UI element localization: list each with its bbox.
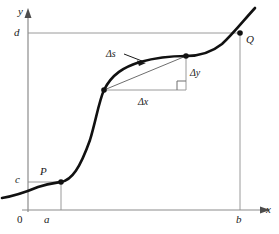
delta-s-label: Δs [106, 49, 116, 59]
delta-x-label: Δx [138, 97, 148, 107]
delta-y-label: Δy [190, 68, 200, 78]
point-triangle-left-marker [101, 87, 107, 93]
right-angle-marker-icon [177, 81, 186, 90]
x-tick-label-b: b [236, 214, 242, 225]
point-P-marker [58, 179, 64, 185]
x-tick-label-a: a [44, 214, 50, 225]
y-axis-arrow-icon [25, 8, 32, 18]
point-label-P: P [40, 166, 47, 177]
figure-root: y x d c 0 a b P Q Δs Δy Δx [0, 0, 279, 234]
y-tick-label-d: d [14, 27, 20, 38]
y-axis-label: y [18, 6, 23, 17]
delta-s-pointer-line [124, 54, 142, 61]
x-axis-label: x [266, 204, 271, 215]
point-Q-marker [237, 30, 243, 36]
origin-label: 0 [17, 214, 23, 225]
figure-canvas [0, 0, 279, 234]
point-label-Q: Q [246, 34, 254, 45]
y-tick-label-c: c [15, 174, 20, 185]
point-triangle-top-marker [183, 53, 189, 59]
